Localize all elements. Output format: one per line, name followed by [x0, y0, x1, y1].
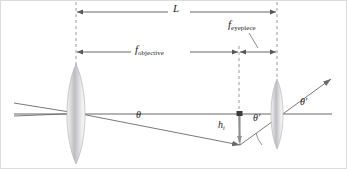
- diagram-canvas: [0, 0, 347, 169]
- feyepiece-subscript: eyepiece: [231, 24, 256, 31]
- telescope-ray-diagram: L feyepiece fobjective θ hi θ′ θ′: [0, 0, 347, 169]
- label-angle-theta-prime-near: θ′: [253, 113, 260, 123]
- image-point-marker: [237, 111, 243, 116]
- label-tube-length: L: [173, 3, 179, 14]
- label-image-height: hi: [218, 120, 225, 130]
- label-focal-length-eyepiece: feyepiece: [228, 19, 256, 30]
- image-height-subscript: i: [223, 124, 225, 131]
- label-angle-theta: θ: [136, 110, 141, 120]
- label-focal-length-objective: fobjective: [135, 44, 164, 55]
- label-angle-theta-prime-far: θ′: [300, 97, 307, 107]
- figure-border: [1, 1, 347, 169]
- fobjective-subscript: objective: [138, 49, 164, 56]
